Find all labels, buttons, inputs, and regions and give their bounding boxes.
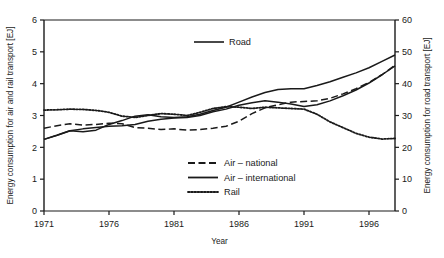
series-line-air-national [44,65,395,130]
y-tick-label-right-20: 20 [402,143,412,153]
x-tick-label-1981: 1981 [164,219,184,229]
y-tick-label-right-60: 60 [402,15,412,25]
y-tick-label-right-50: 50 [402,47,412,57]
y-tick-label-left-5: 5 [32,47,37,57]
x-tick-label-1986: 1986 [229,219,249,229]
y-tick-label-right-10: 10 [402,174,412,184]
y-tick-label-left-6: 6 [32,15,37,25]
y-tick-label-left-2: 2 [32,143,37,153]
legend-label-rail: Rail [224,187,240,197]
legend-label-air-national: Air – national [224,158,278,168]
chart-figure: 0123456010203040506019711976198119861991… [0,0,444,258]
road-series-label: Road [229,37,251,47]
x-axis-title: Year [211,237,228,246]
y-axis-title-left: Energy consumption for air and rail tran… [6,27,15,205]
x-tick-label-1991: 1991 [294,219,314,229]
y-tick-label-right-30: 30 [402,111,412,121]
legend-label-air-international: Air – international [224,173,296,183]
series-line-rail [44,107,395,139]
x-tick-label-1996: 1996 [359,219,379,229]
y-tick-label-left-3: 3 [32,111,37,121]
y-axis-title-right: Energy consumption for road transport [E… [423,37,432,193]
y-tick-label-left-1: 1 [32,174,37,184]
x-tick-label-1976: 1976 [99,219,119,229]
y-tick-label-right-40: 40 [402,79,412,89]
line-chart: 0123456010203040506019711976198119861991… [0,0,444,258]
y-tick-label-left-0: 0 [32,206,37,216]
y-tick-label-right-0: 0 [402,206,407,216]
y-tick-label-left-4: 4 [32,79,37,89]
x-tick-label-1971: 1971 [34,219,54,229]
